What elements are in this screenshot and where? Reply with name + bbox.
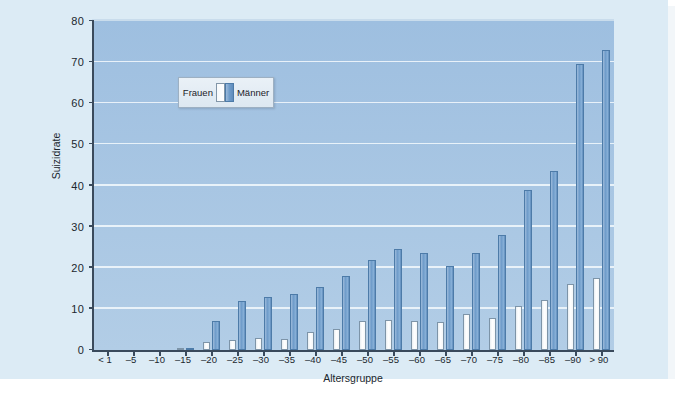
y-axis-tick bbox=[89, 102, 94, 104]
bar-frauen bbox=[489, 318, 497, 350]
x-axis-tick-label: –90 bbox=[565, 354, 581, 365]
bar-frauen bbox=[203, 342, 211, 350]
bar-frauen bbox=[333, 329, 341, 350]
bar-frauen bbox=[463, 314, 471, 350]
y-axis-tick bbox=[89, 143, 94, 145]
y-axis-tick-label: 10 bbox=[71, 303, 84, 315]
bar-maenner bbox=[498, 235, 506, 350]
y-axis-tick bbox=[89, 20, 94, 22]
bar-group bbox=[120, 21, 146, 350]
y-axis-title: Suizidrate bbox=[50, 96, 62, 216]
bar-frauen bbox=[359, 321, 367, 350]
bar-maenner bbox=[576, 64, 584, 350]
bar-maenner bbox=[602, 50, 610, 350]
bar-maenner bbox=[368, 260, 376, 350]
x-axis-tick-label: –5 bbox=[126, 354, 137, 365]
y-axis-tick-label: 40 bbox=[71, 180, 84, 192]
x-axis-tick-label: –80 bbox=[513, 354, 529, 365]
legend-label-frauen: Frauen bbox=[183, 87, 213, 98]
bar-series-container bbox=[94, 21, 614, 350]
y-axis-tick-label: 50 bbox=[71, 138, 84, 150]
bar-maenner bbox=[238, 301, 246, 350]
y-axis-tick-label: 60 bbox=[71, 97, 84, 109]
bar-frauen bbox=[593, 278, 601, 350]
bar-group bbox=[432, 21, 458, 350]
y-axis-tick bbox=[89, 61, 94, 63]
bar-group bbox=[380, 21, 406, 350]
bar-group bbox=[224, 21, 250, 350]
bar-frauen bbox=[411, 321, 419, 350]
bar-group bbox=[484, 21, 510, 350]
bar-maenner bbox=[420, 253, 428, 350]
y-axis-tick-label: 0 bbox=[78, 344, 84, 356]
bar-group bbox=[536, 21, 562, 350]
y-axis-tick-label: 80 bbox=[71, 15, 84, 27]
x-axis-tick-label: –75 bbox=[487, 354, 503, 365]
plot-area: Frauen Männer bbox=[92, 21, 614, 352]
x-axis-tick-label: –30 bbox=[253, 354, 269, 365]
bar-maenner bbox=[472, 253, 480, 350]
bar-group bbox=[276, 21, 302, 350]
legend-box: Frauen Männer bbox=[178, 77, 274, 108]
x-axis-tick-label: –50 bbox=[357, 354, 373, 365]
y-axis-tick bbox=[89, 307, 94, 309]
x-axis-tick-label: –45 bbox=[331, 354, 347, 365]
bar-group bbox=[588, 21, 614, 350]
y-axis-tick bbox=[89, 225, 94, 227]
bar-frauen bbox=[437, 322, 445, 350]
x-axis-tick-label: < 1 bbox=[98, 354, 111, 365]
bar-maenner bbox=[212, 321, 220, 350]
figure-panel-shadow-right bbox=[668, 6, 675, 385]
bar-group bbox=[198, 21, 224, 350]
x-axis-tick-label: –25 bbox=[227, 354, 243, 365]
bar-maenner bbox=[394, 249, 402, 350]
bar-maenner bbox=[264, 297, 272, 350]
chart-figure: 01020304050607080 Suizidrate Frauen Männ… bbox=[0, 0, 675, 405]
y-axis-tick bbox=[89, 266, 94, 268]
bar-maenner bbox=[316, 287, 324, 350]
x-axis-title: Altersgruppe bbox=[92, 372, 614, 384]
legend-swatch-maenner bbox=[225, 83, 234, 102]
bar-frauen bbox=[567, 284, 575, 350]
x-axis-tick-labels: < 1–5–10–15–20–25–30–35–40–45–50–55–60–6… bbox=[92, 354, 614, 374]
bar-frauen bbox=[281, 339, 289, 351]
x-axis-tick-label: –10 bbox=[149, 354, 165, 365]
x-axis-tick-label: –15 bbox=[175, 354, 191, 365]
bar-group bbox=[146, 21, 172, 350]
bar-frauen bbox=[515, 306, 523, 350]
bar-maenner bbox=[290, 294, 298, 350]
y-axis-ticks bbox=[87, 21, 94, 350]
y-axis-tick-labels: 01020304050607080 bbox=[0, 0, 92, 360]
bar-frauen bbox=[385, 320, 393, 350]
bar-frauen bbox=[307, 332, 315, 351]
x-axis-tick-label: –65 bbox=[435, 354, 451, 365]
legend-swatch-frauen bbox=[216, 83, 225, 102]
x-axis-tick-label: –20 bbox=[201, 354, 217, 365]
bar-group bbox=[510, 21, 536, 350]
legend-swatches bbox=[216, 83, 234, 102]
bar-maenner bbox=[342, 276, 350, 350]
y-axis-tick bbox=[89, 184, 94, 186]
y-axis-tick bbox=[89, 349, 94, 351]
bar-maenner bbox=[446, 266, 454, 350]
bar-frauen bbox=[541, 300, 549, 350]
x-axis-tick-label: –55 bbox=[383, 354, 399, 365]
y-axis-tick-label: 70 bbox=[71, 56, 84, 68]
y-axis-tick-label: 30 bbox=[71, 221, 84, 233]
bar-group bbox=[302, 21, 328, 350]
bar-group bbox=[172, 21, 198, 350]
x-axis-tick-label: –85 bbox=[539, 354, 555, 365]
legend-label-maenner: Männer bbox=[237, 87, 269, 98]
x-axis-tick-label: –70 bbox=[461, 354, 477, 365]
bar-maenner bbox=[550, 171, 558, 350]
bar-frauen bbox=[229, 340, 237, 350]
x-axis-tick-label: –35 bbox=[279, 354, 295, 365]
bar-group bbox=[562, 21, 588, 350]
bar-maenner bbox=[524, 190, 532, 350]
bar-group bbox=[406, 21, 432, 350]
bar-group bbox=[458, 21, 484, 350]
x-axis-tick-label: –40 bbox=[305, 354, 321, 365]
bar-frauen bbox=[255, 338, 263, 350]
bar-group bbox=[250, 21, 276, 350]
y-axis-tick-label: 20 bbox=[71, 262, 84, 274]
